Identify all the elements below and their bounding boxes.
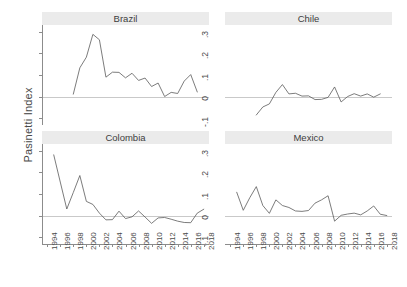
x-axis-tick-label: 1996 bbox=[246, 232, 255, 250]
x-axis-tick-label: 2002 bbox=[102, 232, 111, 250]
panel-mexico: Mexico 199419961998200020022004200620082… bbox=[225, 131, 392, 244]
panel-colombia: Colombia .3.2.10-.1199419961998200020022… bbox=[42, 131, 209, 244]
y-axis-tick bbox=[39, 151, 42, 152]
series-line-chile bbox=[256, 85, 380, 115]
x-axis-tick bbox=[282, 244, 283, 247]
x-axis-tick-label: 2000 bbox=[89, 232, 98, 250]
x-axis-tick-label: 2018 bbox=[207, 232, 216, 250]
x-axis-tick-label: 1998 bbox=[259, 232, 268, 250]
x-axis-tick bbox=[269, 244, 270, 247]
panel-brazil: Brazil .3.2.10-.1 bbox=[42, 12, 209, 125]
x-axis-tick bbox=[99, 244, 100, 247]
x-axis-tick bbox=[387, 244, 388, 247]
series-line-colombia bbox=[54, 155, 204, 223]
y-axis-tick-label: .1 bbox=[200, 193, 210, 200]
x-axis-tick bbox=[139, 244, 140, 247]
x-axis-tick bbox=[361, 244, 362, 247]
panel-title-strip-brazil: Brazil bbox=[42, 12, 209, 25]
x-axis-tick bbox=[73, 244, 74, 247]
y-axis-tick bbox=[39, 97, 42, 98]
panel-title-chile: Chile bbox=[225, 12, 392, 25]
y-axis-tick-label: -.1 bbox=[200, 117, 210, 127]
x-axis-tick-label: 2012 bbox=[168, 232, 177, 250]
y-axis-tick-label: .3 bbox=[200, 150, 210, 157]
plot-area-brazil bbox=[42, 25, 209, 125]
x-axis-tick-label: 1998 bbox=[76, 232, 85, 250]
x-axis-tick bbox=[126, 244, 127, 247]
series-canvas bbox=[42, 144, 209, 244]
x-axis-tick-label: 2016 bbox=[377, 232, 386, 250]
panel-title-strip-colombia: Colombia bbox=[42, 131, 209, 144]
x-axis-tick bbox=[295, 244, 296, 247]
x-axis-tick bbox=[178, 244, 179, 247]
x-axis-tick bbox=[112, 244, 113, 247]
x-axis-tick bbox=[348, 244, 349, 247]
y-axis-tick-label: 0 bbox=[200, 96, 210, 101]
x-axis-tick-label: 2006 bbox=[129, 232, 138, 250]
x-axis-tick bbox=[335, 244, 336, 247]
x-axis-tick bbox=[243, 244, 244, 247]
series-line-mexico bbox=[237, 187, 387, 222]
x-axis-tick bbox=[256, 244, 257, 247]
y-axis-title: Pasinetti Index bbox=[22, 45, 34, 205]
x-axis-tick-label: 1994 bbox=[233, 232, 242, 250]
y-axis bbox=[42, 144, 43, 244]
plot-area-mexico bbox=[225, 144, 392, 244]
series-canvas bbox=[225, 25, 392, 125]
series-canvas bbox=[42, 25, 209, 125]
panel-title-strip-mexico: Mexico bbox=[225, 131, 392, 144]
y-axis-tick-label: .2 bbox=[200, 171, 210, 178]
x-axis-tick-label: 1994 bbox=[50, 232, 59, 250]
x-axis-tick bbox=[191, 244, 192, 247]
x-axis-tick bbox=[47, 244, 48, 247]
x-axis-tick bbox=[230, 244, 231, 247]
x-axis-tick-label: 2004 bbox=[115, 232, 124, 250]
x-axis-tick bbox=[322, 244, 323, 247]
x-axis-tick-label: 2010 bbox=[155, 232, 164, 250]
x-axis-tick-label: 2010 bbox=[338, 232, 347, 250]
pasinetti-index-figure: Pasinetti Index Brazil .3.2.10-.1 Chile … bbox=[0, 0, 407, 287]
x-axis-tick-label: 2000 bbox=[272, 232, 281, 250]
x-axis-tick-label: 2004 bbox=[298, 232, 307, 250]
x-axis-tick-label: 2012 bbox=[351, 232, 360, 250]
x-axis-tick bbox=[86, 244, 87, 247]
y-axis-tick bbox=[39, 172, 42, 173]
y-axis-tick-label: .2 bbox=[200, 52, 210, 59]
y-axis-tick bbox=[39, 75, 42, 76]
plot-area-chile bbox=[225, 25, 392, 125]
y-axis-tick-label: .3 bbox=[200, 31, 210, 38]
panel-title-colombia: Colombia bbox=[42, 131, 209, 144]
panel-title-mexico: Mexico bbox=[225, 131, 392, 144]
x-axis-tick bbox=[374, 244, 375, 247]
panel-title-brazil: Brazil bbox=[42, 12, 209, 25]
x-axis-tick-label: 2002 bbox=[285, 232, 294, 250]
panel-title-strip-chile: Chile bbox=[225, 12, 392, 25]
x-axis-tick-label: 2014 bbox=[364, 232, 373, 250]
y-axis-tick bbox=[39, 118, 42, 119]
series-line-brazil bbox=[73, 34, 197, 96]
x-axis-tick-label: 2008 bbox=[142, 232, 151, 250]
x-axis-tick bbox=[309, 244, 310, 247]
y-axis-tick bbox=[39, 53, 42, 54]
x-axis-tick-label: 2014 bbox=[181, 232, 190, 250]
y-axis-tick-label: 0 bbox=[200, 215, 210, 220]
series-canvas bbox=[225, 144, 392, 244]
x-axis-tick bbox=[204, 244, 205, 247]
y-axis-tick bbox=[39, 194, 42, 195]
plot-area-colombia bbox=[42, 144, 209, 244]
y-axis bbox=[42, 25, 43, 125]
x-axis-tick-label: 1996 bbox=[63, 232, 72, 250]
y-axis-tick bbox=[39, 32, 42, 33]
y-axis-tick bbox=[39, 237, 42, 238]
x-axis-tick bbox=[60, 244, 61, 247]
x-axis-tick-label: 2008 bbox=[325, 232, 334, 250]
y-axis-tick bbox=[39, 216, 42, 217]
x-axis-tick bbox=[152, 244, 153, 247]
x-axis-tick-label: 2018 bbox=[390, 232, 399, 250]
y-axis-tick-label: .1 bbox=[200, 74, 210, 81]
x-axis-tick bbox=[165, 244, 166, 247]
panel-chile: Chile bbox=[225, 12, 392, 125]
x-axis-tick-label: 2016 bbox=[194, 232, 203, 250]
x-axis-tick-label: 2006 bbox=[312, 232, 321, 250]
